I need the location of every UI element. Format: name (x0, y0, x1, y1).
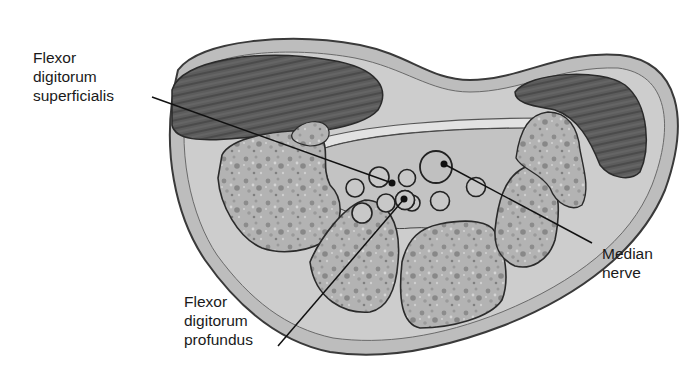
leader-dot-fdp (401, 196, 408, 203)
tendon-fds-3 (377, 194, 395, 212)
leader-dot-fds (389, 180, 396, 187)
tendon-fds-1 (369, 167, 389, 187)
leader-dot-median (441, 161, 448, 168)
median-nerve (420, 151, 452, 183)
label-median-nerve: Median nerve (602, 244, 653, 282)
label-flexor-digitorum-profundus: Flexor digitorum profundus (184, 292, 253, 349)
tendon-fds-2 (399, 170, 416, 187)
tendon-fpl (346, 179, 364, 197)
tendon-fdp-1 (352, 203, 372, 223)
label-flexor-digitorum-superficialis: Flexor digitorum superficialis (33, 48, 114, 105)
tendon-fdp-3 (431, 192, 450, 211)
